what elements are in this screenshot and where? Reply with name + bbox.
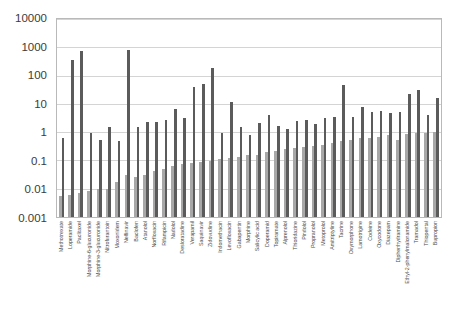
bar xyxy=(286,129,289,217)
bar-group xyxy=(282,19,291,217)
bar xyxy=(268,115,271,217)
x-tick-label: Tramadol xyxy=(415,221,420,243)
bar xyxy=(127,50,130,217)
bar-group xyxy=(272,19,281,217)
bar-group xyxy=(328,19,337,217)
bar xyxy=(380,111,383,217)
x-tick-label: Morphine xyxy=(246,221,251,243)
x-tick-label: Alprenolol xyxy=(284,221,289,245)
bar-group xyxy=(123,19,132,217)
x-label-cell: Paclitaxel xyxy=(76,221,85,311)
x-tick-label: Nadolol xyxy=(171,221,176,239)
bar xyxy=(296,121,299,217)
x-label-cell: Morphine xyxy=(244,221,253,311)
x-label-cell: Doperamid xyxy=(263,221,272,311)
x-tick-label: Zidovudine xyxy=(209,221,214,247)
bar-group xyxy=(244,19,253,217)
x-tick-label: Morphine-3-glucuronide xyxy=(96,221,101,277)
x-tick-label: Metoprolol xyxy=(321,221,326,246)
bar xyxy=(137,127,140,217)
x-tick-label: Topiramate xyxy=(274,221,279,247)
x-label-cell: Methotrexate xyxy=(57,221,66,311)
x-tick-label: Verapamil xyxy=(190,221,195,245)
bar-group xyxy=(85,19,94,217)
x-tick-label: Levofloxacin xyxy=(227,221,232,250)
y-tick-1: 1 xyxy=(41,126,47,138)
bar-group xyxy=(235,19,244,217)
bar-group xyxy=(310,19,319,217)
log-scale-bar-chart: 1000010001001010.10.010.001 Methotrexate… xyxy=(0,0,451,311)
x-tick-label: Pindolol xyxy=(302,221,307,240)
y-axis-tick-labels: 1000010001001010.10.010.001 xyxy=(0,18,51,218)
x-label-cell: Nadolol xyxy=(169,221,178,311)
x-tick-label: Salicylic acid xyxy=(256,221,261,251)
x-label-cell: Propranolol xyxy=(310,221,319,311)
x-label-cell: Amitriptyline xyxy=(328,221,337,311)
x-label-cell: Atanolol xyxy=(141,221,150,311)
x-label-cell: Lamotrigine xyxy=(357,221,366,311)
bar xyxy=(277,126,280,217)
x-label-cell: Metoprolol xyxy=(319,221,328,311)
x-label-cell: Ethyl-2-phenylmalonamide xyxy=(403,221,412,311)
x-label-cell: Alprenolol xyxy=(282,221,291,311)
x-label-cell: Diphenhydramine xyxy=(394,221,403,311)
x-label-cell: Indomethacin xyxy=(216,221,225,311)
bar-group xyxy=(347,19,356,217)
bar-group xyxy=(254,19,263,217)
x-label-cell: Levofloxacin xyxy=(225,221,234,311)
x-label-cell: Zidovudine xyxy=(207,221,216,311)
y-tick-0.1: 0.1 xyxy=(31,155,47,167)
x-label-cell: Rifampicin xyxy=(160,221,169,311)
x-tick-label: Paclitaxel xyxy=(78,221,83,244)
y-tick-100: 100 xyxy=(28,69,47,81)
x-tick-label: Methotrexate xyxy=(59,221,64,252)
bar xyxy=(436,98,439,217)
bar xyxy=(361,107,364,217)
x-label-cell: Nelfinavir xyxy=(123,221,132,311)
bar xyxy=(389,113,392,217)
bar-group xyxy=(151,19,160,217)
bar-group xyxy=(94,19,103,217)
x-label-cell: Norfloxacin xyxy=(151,221,160,311)
bar-group xyxy=(375,19,384,217)
bar-group xyxy=(141,19,150,217)
bar xyxy=(427,115,430,217)
x-tick-label: Baclofen xyxy=(134,221,139,242)
bar-group xyxy=(291,19,300,217)
bar xyxy=(71,60,74,217)
y-tick-0.01: 0.01 xyxy=(25,183,47,195)
x-tick-label: Lamotrigine xyxy=(359,221,364,249)
bar-group xyxy=(225,19,234,217)
bar-group xyxy=(413,19,422,217)
bar xyxy=(155,122,158,217)
bar-group xyxy=(104,19,113,217)
bar-group xyxy=(403,19,412,217)
bar xyxy=(417,90,420,217)
x-tick-label: Atanolol xyxy=(143,221,148,240)
y-tick-10: 10 xyxy=(34,98,47,110)
x-label-cell: Morphine-3-glucuronide xyxy=(94,221,103,311)
bar xyxy=(165,120,168,217)
x-label-cell: Pindolol xyxy=(300,221,309,311)
x-tick-label: Morphine-6-glucuronide xyxy=(87,221,92,277)
bar xyxy=(305,120,308,217)
bar-group xyxy=(132,19,141,217)
x-label-cell: Desloratadine xyxy=(179,221,188,311)
bar xyxy=(230,102,233,217)
bar xyxy=(90,133,93,217)
bar xyxy=(183,118,186,217)
x-tick-label: Nitrofurantoin xyxy=(106,221,111,253)
x-label-cell: Saquinavir xyxy=(197,221,206,311)
bar-group xyxy=(197,19,206,217)
x-label-cell: Tramadol xyxy=(413,221,422,311)
bar xyxy=(399,112,402,217)
bar-group xyxy=(66,19,75,217)
x-label-cell: Verapamil xyxy=(188,221,197,311)
bar xyxy=(258,123,261,217)
x-tick-label: Loperamide xyxy=(68,221,73,249)
bar xyxy=(211,68,214,217)
x-tick-label: Oxycodone xyxy=(377,221,382,248)
bar xyxy=(118,141,121,217)
bar-group xyxy=(366,19,375,217)
bar xyxy=(80,51,83,217)
